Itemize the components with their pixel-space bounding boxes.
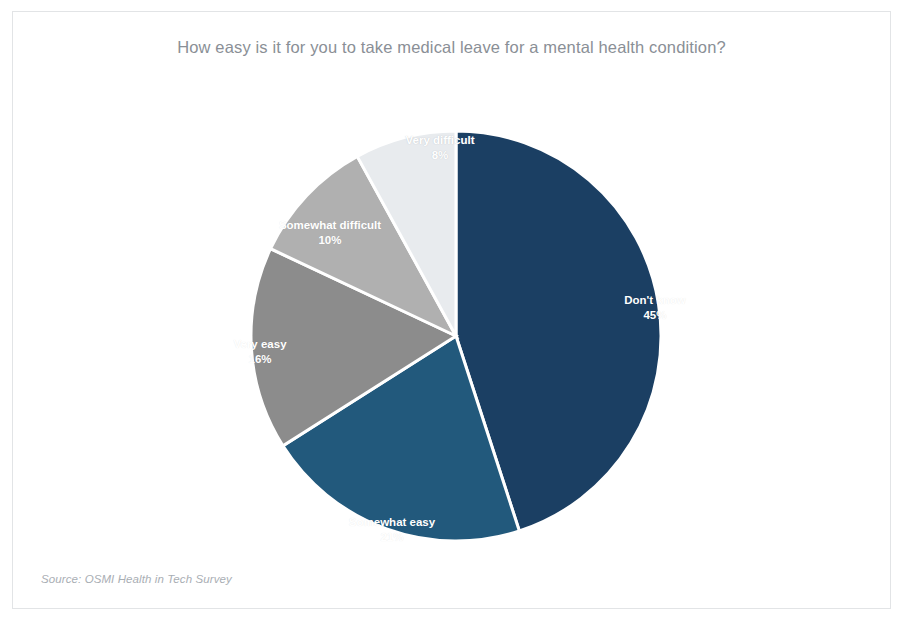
pie-label-dont-know: Don't know 45% xyxy=(624,293,686,323)
pie-label-text: Somewhat difficult xyxy=(279,219,381,231)
chart-card: How easy is it for you to take medical l… xyxy=(12,11,891,609)
pie-label-somewhat-difficult: Somewhat difficult 10% xyxy=(279,218,381,248)
pie-label-very-easy: Very easy 16% xyxy=(233,337,286,367)
pie-label-percent: 10% xyxy=(279,233,381,248)
pie-chart: Don't know 45% Somewhat easy 21% Very ea… xyxy=(13,12,892,610)
pie-chart-svg xyxy=(13,12,892,610)
pie-label-text: Don't know xyxy=(624,294,686,306)
source-note: Source: OSMI Health in Tech Survey xyxy=(41,573,232,585)
pie-label-text: Somewhat easy xyxy=(349,516,435,528)
pie-label-percent: 45% xyxy=(624,308,686,323)
pie-label-text: Very difficult xyxy=(405,134,474,146)
pie-label-very-difficult: Very difficult 8% xyxy=(405,133,474,163)
pie-label-percent: 16% xyxy=(233,352,286,367)
pie-label-somewhat-easy: Somewhat easy 21% xyxy=(349,515,435,545)
pie-label-percent: 8% xyxy=(405,148,474,163)
pie-label-percent: 21% xyxy=(349,530,435,545)
pie-label-text: Very easy xyxy=(233,338,286,350)
